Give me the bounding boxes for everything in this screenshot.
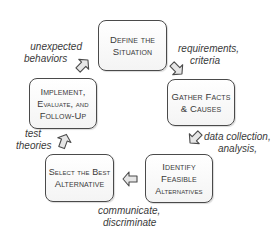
step-label-line: Gather Facts [172,91,231,103]
step-gather-facts: Gather Facts & Causes [167,79,235,126]
step-label-line: Alternative [49,178,111,190]
step-label-line: Situation [110,46,155,58]
transition-label-test-theories: test theories [16,128,52,152]
step-label-line: Implement, [37,86,88,98]
step-label-line: Select the Best [49,166,111,178]
arrow-icon-identify-to-select [121,170,139,188]
transition-label-unexpected-behaviors: unexpected behaviors [24,41,82,65]
step-label-line: Evaluate, and [37,98,88,110]
step-label-line: Identify [155,161,202,173]
step-label-line: Follow-Up [37,110,88,122]
step-define-situation: Define the Situation [98,20,167,71]
step-label-line: Alternatives [155,185,202,197]
transition-label-communicate: communicate, discriminate [98,205,160,229]
step-implement-evaluate: Implement, Evaluate, and Follow-Up [29,78,97,129]
arrow-icon-select-to-implement [55,132,73,150]
label-line: analysis, [204,143,271,155]
label-line: communicate, [98,205,160,217]
label-line: behaviors [24,53,82,65]
transition-label-data-collection: data collection, analysis, [204,131,271,155]
label-line: unexpected [24,41,82,53]
step-label-line: Define the [110,34,155,46]
label-line: requirements, [178,43,239,55]
label-line: theories [16,140,52,152]
step-label-line: Feasible [155,173,202,185]
label-line: criteria [178,55,239,67]
label-line: data collection, [204,131,271,143]
step-identify-alternatives: Identify Feasible Alternatives [145,154,213,203]
step-label-line: & Causes [172,103,231,115]
transition-label-requirements-criteria: requirements, criteria [178,43,239,67]
label-line: test [16,128,52,140]
step-select-best: Select the Best Alternative [45,154,114,202]
label-line: discriminate [98,217,160,229]
arrow-icon-gather-to-identify [186,129,204,147]
